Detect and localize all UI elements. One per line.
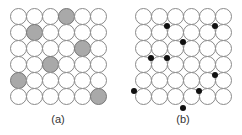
filled-circle	[10, 72, 27, 89]
circle	[10, 8, 27, 25]
circle	[74, 56, 91, 73]
circle	[26, 88, 43, 105]
circle	[183, 8, 200, 25]
circle	[90, 72, 107, 89]
circle	[167, 8, 184, 25]
circle	[215, 8, 232, 25]
circle	[10, 24, 27, 41]
circle	[58, 88, 75, 105]
panel-a-label: (a)	[38, 113, 78, 125]
circle	[167, 88, 184, 105]
circle	[199, 40, 216, 57]
circle	[10, 40, 27, 57]
circle	[10, 56, 27, 73]
circle	[10, 88, 27, 105]
circle	[74, 88, 91, 105]
circle	[42, 40, 59, 57]
circle	[215, 56, 232, 73]
circle	[42, 88, 59, 105]
circle	[74, 72, 91, 89]
panel-a	[10, 8, 108, 106]
panel-b-label: (b)	[163, 113, 203, 125]
interstitial-dot	[164, 23, 170, 29]
filled-circle	[42, 56, 59, 73]
circle	[42, 8, 59, 25]
interstitial-dot	[164, 55, 170, 61]
circle	[90, 40, 107, 57]
circle	[151, 88, 168, 105]
interstitial-dot	[148, 55, 154, 61]
circle	[26, 8, 43, 25]
circle	[183, 72, 200, 89]
interstitial-dot	[212, 23, 218, 29]
circle	[58, 72, 75, 89]
filled-circle	[58, 8, 75, 25]
interstitial-dot	[196, 88, 202, 94]
circle	[74, 24, 91, 41]
circle	[135, 72, 152, 89]
circle	[90, 24, 107, 41]
filled-circle	[90, 88, 107, 105]
circle	[183, 24, 200, 41]
circle	[183, 56, 200, 73]
circle	[26, 72, 43, 89]
circle	[215, 40, 232, 57]
circle	[90, 8, 107, 25]
circle	[42, 72, 59, 89]
circle	[58, 56, 75, 73]
circle	[167, 72, 184, 89]
circle	[215, 88, 232, 105]
circle	[135, 24, 152, 41]
circle	[42, 24, 59, 41]
circle	[135, 8, 152, 25]
interstitial-dot	[180, 105, 186, 111]
circle	[74, 8, 91, 25]
filled-circle	[26, 24, 43, 41]
circle	[58, 40, 75, 57]
circle	[26, 56, 43, 73]
circle	[199, 56, 216, 73]
circle	[26, 40, 43, 57]
circle	[58, 24, 75, 41]
interstitial-dot	[180, 39, 186, 45]
circle	[151, 72, 168, 89]
interstitial-dot	[131, 88, 137, 94]
circle	[135, 88, 152, 105]
interstitial-dot	[212, 72, 218, 78]
circle	[90, 56, 107, 73]
filled-circle	[74, 40, 91, 57]
